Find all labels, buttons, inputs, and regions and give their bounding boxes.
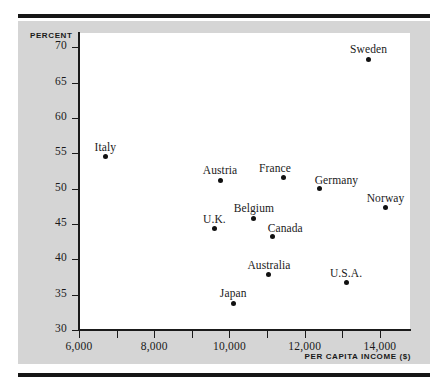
data-point-label: U.S.A. <box>330 267 362 279</box>
y-tick-label: 40 <box>55 251 67 263</box>
data-point-label: Australia <box>247 259 290 271</box>
y-tick: 55 <box>72 153 79 154</box>
data-point-label: Japan <box>220 287 247 299</box>
y-tick: 40 <box>72 259 79 260</box>
y-tick-label: 65 <box>55 75 67 87</box>
x-tick <box>117 331 118 338</box>
x-tick: 10,000 <box>229 331 230 338</box>
data-point[interactable] <box>231 301 236 306</box>
y-tick-label: 45 <box>55 216 67 228</box>
x-tick-label: 14,000 <box>363 340 396 352</box>
x-tick-label: 10,000 <box>213 340 246 352</box>
x-tick <box>342 331 343 338</box>
data-point-label: Sweden <box>350 43 387 55</box>
y-tick: 60 <box>72 118 79 119</box>
data-point[interactable] <box>366 57 371 62</box>
y-tick-label: 30 <box>55 322 67 334</box>
data-point-label: Italy <box>95 141 117 153</box>
y-tick-label: 70 <box>55 39 67 51</box>
data-point-label: France <box>259 162 291 174</box>
x-tick: 6,000 <box>79 331 80 338</box>
data-point-label: Norway <box>367 192 405 204</box>
data-point[interactable] <box>344 280 349 285</box>
y-tick: 65 <box>72 83 79 84</box>
y-tick: 35 <box>72 295 79 296</box>
x-tick <box>192 331 193 338</box>
data-point-label: Austria <box>203 164 238 176</box>
data-point-label: Canada <box>268 222 303 234</box>
figure: PERCENT 303540455055606570 6,0008,00010,… <box>0 0 447 390</box>
x-tick-label: 12,000 <box>288 340 321 352</box>
y-tick: 70 <box>72 47 79 48</box>
y-tick-label: 35 <box>55 287 67 299</box>
y-tick-label: 55 <box>55 145 67 157</box>
x-tick-label: 6,000 <box>66 340 93 352</box>
data-point-label: U.K. <box>203 213 226 225</box>
data-point[interactable] <box>218 178 223 183</box>
y-tick: 50 <box>72 189 79 190</box>
y-tick-label: 50 <box>55 181 67 193</box>
y-axis-line <box>78 32 80 331</box>
y-tick: 30 <box>72 330 79 331</box>
x-axis-line <box>78 329 411 331</box>
top-rule <box>18 14 430 18</box>
x-axis-title: PER CAPITA INCOME ($) <box>305 352 411 361</box>
data-point-label: Belgium <box>234 202 274 214</box>
y-tick-label: 60 <box>55 110 67 122</box>
x-tick <box>267 331 268 338</box>
y-tick: 45 <box>72 224 79 225</box>
data-point-label: Germany <box>315 174 359 186</box>
plot-area <box>79 33 410 330</box>
x-tick-label: 8,000 <box>141 340 168 352</box>
chart-panel: PERCENT 303540455055606570 6,0008,00010,… <box>18 21 430 364</box>
x-tick: 8,000 <box>154 331 155 338</box>
x-tick: 12,000 <box>305 331 306 338</box>
x-tick: 14,000 <box>380 331 381 338</box>
bottom-rule <box>18 373 430 377</box>
